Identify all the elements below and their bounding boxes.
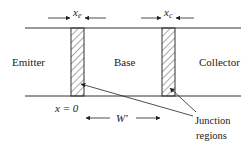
junction-leader-emitter <box>81 84 193 116</box>
junction-label-line2: regions <box>196 130 227 141</box>
emitter-junction-region <box>71 28 84 96</box>
emitter-label: Emitter <box>12 56 45 68</box>
origin-label: x = 0 <box>54 102 79 114</box>
xc-label: xc <box>163 6 173 20</box>
base-label: Base <box>114 56 136 68</box>
collector-junction-region <box>162 28 175 96</box>
transistor-diagram: xe xc Emitter Base Collector x = 0 W′ Ju… <box>0 0 251 150</box>
base-width-label: W′ <box>116 112 128 124</box>
junction-label-line1: Junction <box>195 115 231 126</box>
xe-label: xe <box>72 6 82 20</box>
junction-leader-collector <box>170 88 196 112</box>
collector-label: Collector <box>199 56 240 68</box>
